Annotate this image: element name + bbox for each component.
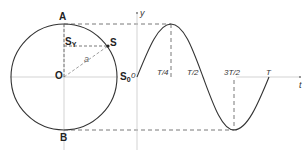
label-a: A [59,12,66,22]
label-radius: a [84,54,89,64]
label-sy-main: S [65,36,72,47]
label-sy-sub: Y [72,41,77,48]
y-axis-arrow-dot [136,12,138,14]
tick-label-3t2: 3T/2 [224,68,240,78]
tick-label-t4: T/4 [157,68,169,78]
tick-label-t2: T/2 [187,68,199,78]
label-s0-sub: 0 [127,76,131,83]
t-axis-arrow-dot [299,76,301,78]
tick-label-t: T [266,68,271,78]
label-s: S [110,38,117,48]
label-y-axis: y [140,8,145,18]
label-o: O [55,71,63,81]
label-b: B [60,133,67,143]
label-s0: S0 [120,72,131,85]
diagram-canvas [0,0,306,158]
label-t-axis: t [299,80,302,90]
label-origin: 0 [131,71,135,81]
label-sy: SY [65,37,76,50]
label-s0-main: S [120,71,127,82]
